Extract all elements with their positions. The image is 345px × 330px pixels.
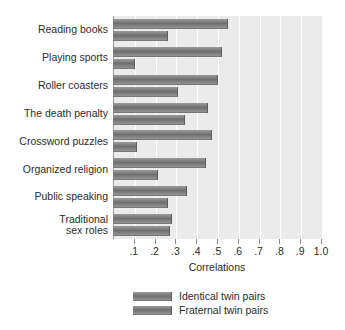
x-axis-tick: [300, 239, 301, 244]
x-axis-tick: [217, 239, 218, 244]
category-label: Playing sports: [0, 52, 108, 64]
category-label: Traditional sex roles: [0, 214, 108, 237]
bar-fraternal: [113, 59, 135, 69]
bar-fraternal: [113, 142, 137, 152]
x-axis-tick: [155, 239, 156, 244]
bar-identical: [113, 130, 212, 140]
bar-identical: [113, 158, 206, 168]
bar-identical: [113, 214, 172, 224]
bar-fraternal: [113, 31, 168, 41]
bar-identical: [113, 19, 228, 29]
bar-fraternal: [113, 198, 168, 208]
bar-fraternal: [113, 115, 185, 125]
legend-item: Fraternal twin pairs: [0, 304, 345, 316]
category-label: Public speaking: [0, 191, 108, 203]
x-axis-tick: [134, 239, 135, 244]
category-axis-labels: Reading booksPlaying sportsRoller coaste…: [0, 16, 108, 239]
category-label: Roller coasters: [0, 80, 108, 92]
table-row: [113, 183, 321, 211]
bar-rows: [113, 16, 321, 239]
bar-fraternal: [113, 170, 158, 180]
table-row: [113, 128, 321, 156]
x-axis-tick: [259, 239, 260, 244]
twin-correlation-bar-chart: Reading booksPlaying sportsRoller coaste…: [0, 0, 345, 330]
table-row: [113, 100, 321, 128]
table-row: [113, 155, 321, 183]
table-row: [113, 211, 321, 239]
legend-swatch-icon: [133, 292, 172, 301]
bar-identical: [113, 47, 222, 57]
category-label: Crossword puzzles: [0, 136, 108, 148]
bar-fraternal: [113, 226, 170, 236]
x-axis-tick: [175, 239, 176, 244]
category-label: Organized religion: [0, 164, 108, 176]
x-axis-title: Correlations: [113, 261, 321, 273]
x-axis-tick: [279, 239, 280, 244]
table-row: [113, 72, 321, 100]
x-axis-tick: [196, 239, 197, 244]
x-axis-tick: [321, 239, 322, 244]
legend-label: Fraternal twin pairs: [179, 304, 268, 316]
x-axis-tick-label: 1.0: [309, 245, 333, 257]
chart-legend: Identical twin pairsFraternal twin pairs: [0, 290, 345, 318]
legend-item: Identical twin pairs: [0, 290, 345, 302]
category-label: The death penalty: [0, 108, 108, 120]
gridline: [322, 16, 323, 239]
table-row: [113, 44, 321, 72]
legend-swatch-icon: [133, 306, 172, 315]
category-label: Reading books: [0, 24, 108, 36]
bar-identical: [113, 186, 187, 196]
legend-label: Identical twin pairs: [179, 290, 265, 302]
bar-identical: [113, 75, 218, 85]
bar-fraternal: [113, 87, 178, 97]
bar-identical: [113, 103, 208, 113]
x-axis-tick: [238, 239, 239, 244]
table-row: [113, 16, 321, 44]
